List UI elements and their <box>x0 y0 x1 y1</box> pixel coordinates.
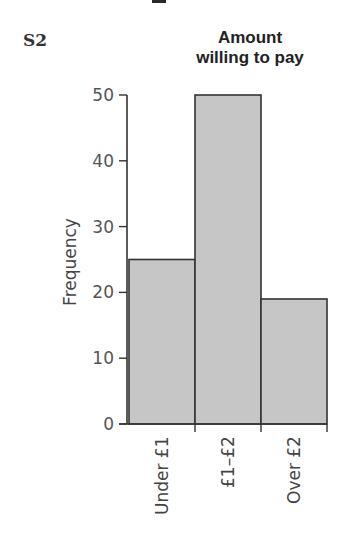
y-tick-label: 30 <box>84 217 114 237</box>
y-tick-label: 0 <box>84 414 114 434</box>
x-tick-label: £1–£2 <box>218 436 238 488</box>
x-tick-label: Under £1 <box>152 437 172 516</box>
bar-1 <box>195 95 261 424</box>
y-tick-label: 50 <box>84 85 114 105</box>
bar-2 <box>261 299 327 424</box>
y-tick-label: 10 <box>84 348 114 368</box>
y-tick-label: 40 <box>84 151 114 171</box>
y-tick-label: 20 <box>84 282 114 302</box>
x-tick-label: Over £2 <box>284 436 304 504</box>
bar-0 <box>129 260 195 425</box>
bars-group <box>129 95 327 424</box>
